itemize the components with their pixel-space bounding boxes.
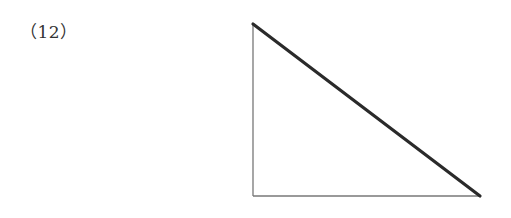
hypotenuse-bold <box>253 24 480 196</box>
right-triangle-diagram <box>0 0 511 218</box>
